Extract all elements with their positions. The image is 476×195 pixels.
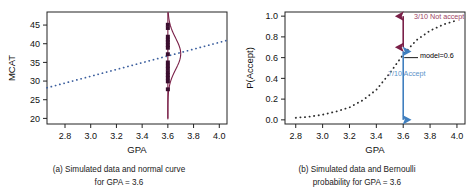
panel-b-caption-line2: probability for GPA = 3.6 (313, 178, 402, 187)
panel-a-caption-line1: (a) Simulated data and normal curve (53, 165, 186, 174)
y-axis-title: P(Accept) (244, 47, 255, 89)
y-tick-label: 20 (30, 114, 40, 124)
data-point (166, 80, 170, 84)
data-point (166, 67, 170, 71)
accept-label: 7/10 Accept (388, 69, 426, 78)
x-tick-label: 3.0 (316, 131, 329, 141)
x-tick-label: 3.8 (424, 131, 437, 141)
x-tick-label: 3.6 (162, 131, 175, 141)
data-point (166, 61, 170, 65)
data-point (166, 76, 170, 80)
y-tick-label: 40 (30, 39, 40, 49)
panel-b: 2.83.03.23.43.63.84.0 0.00.20.40.60.81.0… (238, 0, 476, 195)
panel-b-chart: 2.83.03.23.43.63.84.0 0.00.20.40.60.81.0… (238, 0, 476, 195)
y-tick-label: 30 (30, 76, 40, 86)
y-axis-ticks: 0.00.20.40.60.81.0 (265, 11, 285, 125)
x-tick-label: 2.8 (59, 131, 72, 141)
x-tick-label: 2.8 (289, 131, 302, 141)
model-label: model=0.6 (420, 51, 454, 60)
panel-a-chart: 2.83.03.23.43.63.84.0 202530354045 GPA M… (0, 0, 238, 195)
y-tick-label: 0.0 (265, 115, 278, 125)
x-tick-label: 3.0 (84, 131, 97, 141)
x-tick-label: 3.6 (397, 131, 410, 141)
x-axis-ticks: 2.83.03.23.43.63.84.0 (289, 124, 463, 141)
y-tick-label: 0.6 (265, 53, 278, 63)
panel-a: 2.83.03.23.43.63.84.0 202530354045 GPA M… (0, 0, 238, 195)
y-tick-label: 0.8 (265, 32, 278, 42)
plot-frame (285, 12, 465, 124)
y-tick-label: 25 (30, 95, 40, 105)
panel-b-caption-line1: (b) Simulated data and Bernoulli (299, 165, 416, 174)
not-accept-label: 3/10 Not accept (414, 12, 464, 21)
x-axis-title: GPA (127, 144, 147, 155)
data-point (166, 52, 170, 56)
figure-container: 2.83.03.23.43.63.84.0 202530354045 GPA M… (0, 0, 476, 195)
data-point (166, 87, 170, 91)
x-tick-label: 3.2 (110, 131, 123, 141)
y-axis-title: MCAT (6, 55, 17, 81)
y-axis-ticks: 202530354045 (30, 20, 47, 123)
x-axis-title: GPA (365, 144, 385, 155)
x-tick-label: 4.0 (451, 131, 464, 141)
data-point (166, 26, 170, 30)
panel-b-plot-area: 2.83.03.23.43.63.84.0 0.00.20.40.60.81.0 (265, 11, 465, 141)
y-tick-label: 0.4 (265, 74, 278, 84)
panel-a-caption-line2: for GPA = 3.6 (95, 178, 144, 187)
y-tick-label: 45 (30, 20, 40, 30)
data-point (166, 46, 170, 50)
x-tick-label: 3.4 (136, 131, 149, 141)
x-tick-label: 3.2 (343, 131, 356, 141)
y-tick-label: 1.0 (265, 11, 278, 21)
x-tick-label: 3.4 (370, 131, 383, 141)
panel-a-plot-area: 2.83.03.23.43.63.84.0 202530354045 (30, 12, 227, 141)
y-tick-label: 0.2 (265, 94, 278, 104)
x-tick-label: 3.8 (187, 131, 200, 141)
x-tick-label: 4.0 (213, 131, 226, 141)
data-point (166, 23, 170, 27)
y-tick-label: 35 (30, 58, 40, 68)
x-axis-ticks: 2.83.03.23.43.63.84.0 (59, 124, 226, 141)
plot-frame (47, 12, 227, 124)
